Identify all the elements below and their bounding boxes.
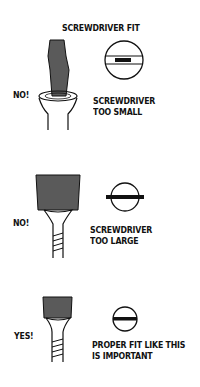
screw-head-proper-blade-icon — [0, 0, 200, 387]
caption-line1: PROPER FIT LIKE THIS — [92, 340, 185, 351]
verdict-label: YES! — [14, 331, 33, 342]
caption-line2: IS IMPORTANT — [92, 351, 152, 362]
